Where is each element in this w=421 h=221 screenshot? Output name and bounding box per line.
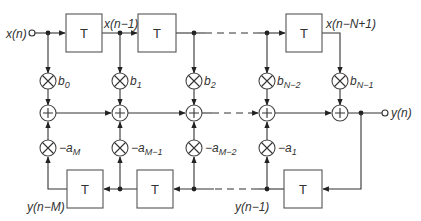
coef-aM-2: −aM−2 (205, 141, 236, 157)
adder-5 (332, 105, 348, 121)
coef-a1: −a1 (278, 141, 297, 157)
delay-label: T (81, 182, 89, 197)
delay-label: T (300, 26, 308, 41)
coef-bN-2: bN−2 (277, 74, 300, 90)
y-n-M-label: y(n−M) (26, 200, 65, 214)
multiplier-bN-1 (332, 73, 348, 89)
multiplier-aM (40, 140, 56, 156)
multiplier-b1 (112, 73, 128, 89)
adder-1 (40, 105, 56, 121)
multiplier-b0 (40, 73, 56, 89)
adder-2 (112, 105, 128, 121)
multiplier-bN-2 (259, 73, 275, 89)
input-terminal (29, 30, 35, 36)
adder-3 (186, 105, 202, 121)
junction (118, 187, 123, 192)
coef-b1: b1 (130, 74, 142, 90)
input-label: x(n) (5, 27, 27, 41)
x-n-N+1-label: x(n−N+1) (325, 17, 376, 31)
adder-4 (259, 105, 275, 121)
multiplier-a1 (259, 140, 275, 156)
delay-label: T (80, 26, 88, 41)
output-terminal (382, 110, 388, 116)
junction (265, 187, 270, 192)
delay-label: T (151, 182, 159, 197)
y-n-1-label: y(n−1) (234, 200, 269, 214)
coef-aM-1: −aM−1 (131, 141, 162, 157)
delay-label: T (299, 182, 307, 197)
multiplier-aM-1 (112, 140, 128, 156)
coef-b2: b2 (204, 74, 216, 90)
coef-bN-1: bN−1 (350, 74, 373, 90)
multiplier-b2 (186, 73, 202, 89)
delay-label: T (153, 26, 161, 41)
coef-b0: b0 (58, 74, 70, 90)
multiplier-aM-2 (186, 140, 202, 156)
coef-aM: −aM (59, 141, 81, 157)
output-label: y(n) (390, 106, 412, 120)
iir-filter-diagram: T T T T T T x(n) y(n) x(n−1) x(n−N+1) y(… (0, 0, 421, 221)
x-n-1-label: x(n−1) (103, 17, 138, 31)
junction (192, 187, 197, 192)
